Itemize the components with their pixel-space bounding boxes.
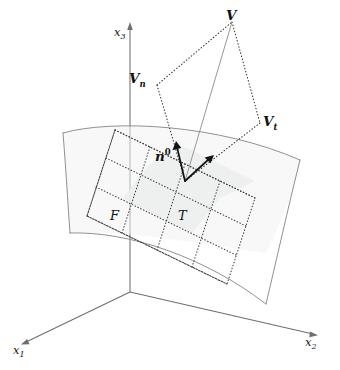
vector-label-vn: Vn (129, 72, 146, 88)
diagram-canvas (0, 0, 340, 370)
axis-label-x1: x1 (13, 345, 25, 359)
axis-x1-line (26, 292, 130, 342)
axis-x1-arrowhead (21, 339, 30, 345)
construct-v-to-vt (232, 22, 260, 123)
axis-label-x2: x2 (305, 337, 317, 351)
axis-x2-line (130, 292, 313, 334)
axis-x3-arrowhead (127, 22, 133, 30)
vector-label-vt: Vt (263, 115, 277, 131)
normal-unit-label: n0 (155, 148, 171, 163)
vector-decomposition-figure: x3 x1 x2 V Vn Vt n0 F T (0, 0, 340, 370)
surface-label-f: F (110, 209, 119, 222)
vector-label-v: V (226, 9, 236, 23)
axis-label-x3: x3 (114, 27, 126, 41)
tangent-label-t: T (178, 209, 187, 222)
construct-vn-to-v (157, 22, 232, 85)
